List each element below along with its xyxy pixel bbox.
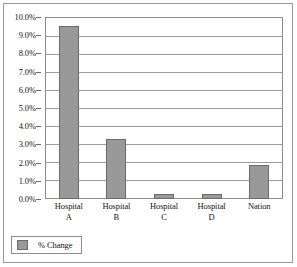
- legend-swatch-pct-change: [17, 240, 28, 250]
- y-tick-label-1: 1.0%: [19, 176, 36, 186]
- y-tick-label-6: 6.0%: [19, 85, 36, 95]
- y-tick-label-4: 4.0%: [19, 121, 36, 131]
- legend-label-pct-change: % Change: [38, 240, 72, 250]
- x-tick-label-hospital-d: Hospital D: [188, 201, 236, 223]
- x-tick-label-nation: Nation: [235, 201, 283, 212]
- x-axis: Hospital A Hospital B Hospital C Hospita…: [45, 201, 283, 231]
- legend: % Change: [11, 236, 82, 254]
- y-tick-label-3: 3.0%: [19, 139, 36, 149]
- y-tick-mark-5: [36, 108, 41, 109]
- bar-hospital-a: [59, 26, 79, 199]
- y-tick-mark-2: [36, 163, 41, 164]
- x-tick-label-line2: A: [45, 212, 93, 223]
- x-tick-label-hospital-a: Hospital A: [45, 201, 93, 223]
- x-tick-label-line1: Nation: [248, 201, 271, 211]
- y-tick-mark-9: [36, 35, 41, 36]
- y-tick-mark-7: [36, 72, 41, 73]
- y-tick-mark-0: [36, 199, 41, 200]
- x-tick-label-line1: Hospital: [150, 201, 178, 211]
- y-tick-label-7: 7.0%: [19, 67, 36, 77]
- y-tick-mark-10: [36, 17, 41, 18]
- y-tick-mark-1: [36, 181, 41, 182]
- x-tick-label-line2: B: [93, 212, 141, 223]
- bar-nation: [249, 165, 269, 199]
- y-tick-label-5: 5.0%: [19, 103, 36, 113]
- y-tick-label-10: 10.0%: [15, 12, 36, 22]
- bar-hospital-c: [154, 194, 174, 199]
- y-tick-label-8: 8.0%: [19, 48, 36, 58]
- y-tick-mark-3: [36, 144, 41, 145]
- y-tick-mark-4: [36, 126, 41, 127]
- y-axis: 10.0% 9.0% 8.0% 7.0% 6.0% 5.0% 4.0% 3.0%…: [3, 17, 41, 199]
- x-tick-label-line2: C: [140, 212, 188, 223]
- x-tick-label-hospital-c: Hospital C: [140, 201, 188, 223]
- y-tick-label-0: 0.0%: [19, 194, 36, 204]
- bar-hospital-d: [202, 194, 222, 199]
- y-tick-mark-6: [36, 90, 41, 91]
- bar-hospital-b: [106, 139, 126, 199]
- y-tick-mark-8: [36, 53, 41, 54]
- x-tick-label-hospital-b: Hospital B: [93, 201, 141, 223]
- y-tick-label-2: 2.0%: [19, 158, 36, 168]
- x-tick-label-line1: Hospital: [198, 201, 226, 211]
- x-tick-label-line1: Hospital: [55, 201, 83, 211]
- y-tick-label-9: 9.0%: [19, 30, 36, 40]
- bars-layer: [45, 17, 283, 199]
- x-tick-label-line2: D: [188, 212, 236, 223]
- bar-chart-figure: 10.0% 9.0% 8.0% 7.0% 6.0% 5.0% 4.0% 3.0%…: [0, 0, 297, 267]
- x-tick-label-line1: Hospital: [102, 201, 130, 211]
